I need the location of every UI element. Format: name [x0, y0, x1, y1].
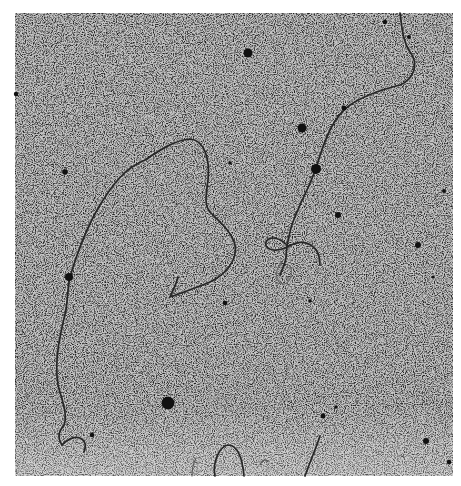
particle	[14, 92, 18, 96]
micrograph-canvas	[0, 0, 461, 486]
particle	[407, 35, 411, 39]
particle	[62, 169, 68, 175]
particle	[415, 242, 421, 248]
particle	[321, 414, 326, 419]
particle	[65, 273, 73, 281]
particle	[228, 161, 232, 165]
particle	[311, 164, 321, 174]
particle	[308, 299, 312, 303]
particle	[162, 397, 175, 410]
particle	[90, 433, 95, 438]
particle	[244, 49, 253, 58]
particle	[447, 460, 452, 465]
particle	[334, 405, 338, 409]
particle	[342, 106, 347, 111]
particle	[432, 276, 435, 279]
particle	[423, 438, 429, 444]
micrograph	[0, 0, 461, 486]
particle	[335, 212, 341, 218]
particle	[383, 20, 387, 24]
particle	[298, 124, 307, 133]
particle	[223, 301, 228, 306]
particle	[442, 189, 446, 193]
